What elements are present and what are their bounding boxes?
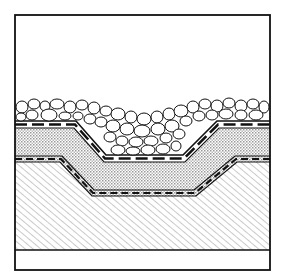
channel-cross-section-diagram	[0, 0, 289, 278]
